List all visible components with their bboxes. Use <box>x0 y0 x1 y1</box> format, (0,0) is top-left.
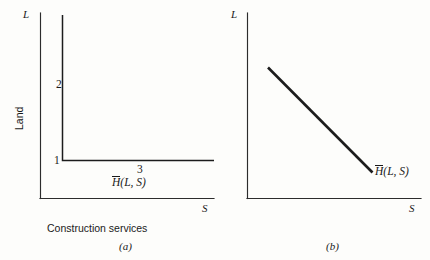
panel-b-caption: (b) <box>326 241 339 252</box>
segment-label-1: 1 <box>54 155 60 167</box>
x-axis-symbol: S <box>202 203 208 214</box>
isoquant-label-args: (L, S) <box>383 165 409 177</box>
segment-label-3: 3 <box>137 164 143 176</box>
isoquant-label: H(L, S) <box>375 166 409 178</box>
isoquant-figure: L S 2 1 3 H(L, S) Land Construction serv… <box>0 0 430 260</box>
y-axis-title: Land <box>14 107 25 130</box>
x-axis-title: Construction services <box>47 223 147 234</box>
isoquant-label: H(L, S) <box>112 177 146 189</box>
isoquant-curve <box>63 15 215 161</box>
y-axis-symbol: L <box>231 9 237 20</box>
isoquant-label-args: (L, S) <box>120 176 146 188</box>
isoquant-label-bar: H <box>112 177 120 189</box>
panel-b: L S H(L, S) (b) <box>215 0 430 260</box>
x-axis-symbol: S <box>409 203 415 214</box>
y-axis-symbol: L <box>23 9 29 20</box>
panel-b-plot <box>215 0 430 260</box>
segment-label-2: 2 <box>56 79 62 91</box>
panel-a-plot <box>0 0 215 260</box>
isoquant-curve <box>268 68 373 173</box>
isoquant-label-bar: H <box>375 166 383 178</box>
panel-a-caption: (a) <box>119 241 132 252</box>
panel-a: L S 2 1 3 H(L, S) Land Construction serv… <box>0 0 215 260</box>
